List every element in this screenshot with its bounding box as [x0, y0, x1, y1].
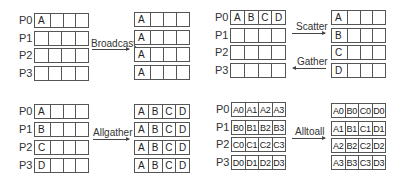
buffer-cell: [76, 67, 89, 80]
buffer-cell: [51, 14, 64, 27]
scatter-after-buffer-p2: C: [331, 45, 386, 60]
scatter-after-buffer-p0: A: [331, 10, 386, 25]
buffer-cell: [245, 29, 259, 42]
buffer-cell: C3: [359, 156, 373, 169]
gather-label: Gather: [297, 56, 328, 68]
buffer-cell: D3: [273, 156, 286, 169]
buffer-cell: [51, 141, 64, 154]
buffer-cell: [76, 105, 88, 118]
broadcast-before-buffer-p2: [34, 48, 89, 63]
buffer-cell: [64, 159, 77, 172]
buffer-cell: [361, 29, 374, 42]
arrow-right-icon: [292, 33, 325, 34]
broadcast-before-buffer-p0: A: [34, 13, 89, 28]
buffer-cell: B: [149, 105, 163, 118]
buffer-cell: A0: [332, 104, 346, 117]
buffer-cell: B1: [346, 122, 360, 135]
process-label-p3: P3: [19, 158, 32, 172]
arrow-right-icon: [92, 49, 129, 50]
process-label-p0: P0: [19, 13, 32, 27]
buffer-cell: D: [35, 159, 51, 172]
process-label-p1: P1: [215, 28, 228, 42]
buffer-cell: [373, 64, 385, 77]
buffer-cell: [272, 29, 285, 42]
alltoall-label: Alltoall: [295, 126, 324, 138]
buffer-cell: D1: [373, 122, 386, 135]
arrow-left-icon: [293, 68, 326, 69]
broadcast-after-buffer-p2: A: [134, 47, 190, 62]
buffer-cell: [177, 13, 189, 26]
buffer-cell: C: [259, 11, 273, 24]
scatter-before-buffer-p3: [230, 63, 286, 78]
scatter-after-buffer-p3: D: [331, 63, 386, 78]
process-label-p3: P3: [215, 63, 228, 77]
buffer-cell: [177, 31, 189, 44]
buffer-cell: D3: [373, 156, 386, 169]
buffer-cell: [76, 14, 88, 27]
buffer-cell: [373, 11, 385, 24]
buffer-cell: [259, 64, 273, 77]
buffer-cell: [62, 32, 76, 45]
process-label-p3: P3: [216, 155, 229, 169]
buffer-cell: [151, 13, 164, 26]
buffer-cell: [64, 141, 77, 154]
buffer-cell: [62, 49, 76, 62]
scatter-before-buffer-p2: [230, 45, 286, 60]
buffer-cell: A: [35, 105, 51, 118]
buffer-cell: D: [176, 159, 189, 172]
buffer-cell: A: [135, 13, 151, 26]
buffer-cell: B: [245, 11, 259, 24]
buffer-cell: [76, 32, 89, 45]
buffer-cell: [231, 29, 245, 42]
buffer-cell: [76, 141, 88, 154]
buffer-cell: [361, 46, 374, 59]
buffer-cell: [348, 64, 361, 77]
buffer-cell: D: [332, 64, 348, 77]
alltoall-after-buffer-p2: A2B2C2D2: [331, 138, 386, 153]
buffer-cell: [49, 49, 63, 62]
buffer-cell: A: [332, 11, 348, 24]
buffer-cell: D2: [373, 139, 386, 152]
allgather-after-buffer-p3: ABCD: [134, 158, 190, 173]
buffer-cell: [151, 48, 164, 61]
buffer-cell: [272, 46, 285, 59]
buffer-cell: [49, 32, 63, 45]
buffer-cell: [64, 105, 77, 118]
buffer-cell: [245, 46, 259, 59]
buffer-cell: [51, 123, 64, 136]
buffer-cell: C: [163, 105, 177, 118]
allgather-before-buffer-p2: C: [34, 140, 89, 155]
buffer-cell: C0: [232, 138, 246, 151]
scatter-after-buffer-p1: B: [331, 28, 386, 43]
buffer-cell: [51, 105, 64, 118]
process-label-p0: P0: [215, 10, 228, 24]
buffer-cell: D1: [246, 156, 260, 169]
buffer-cell: D: [176, 141, 189, 154]
allgather-after-buffer-p2: ABCD: [134, 140, 190, 155]
process-label-p1: P1: [19, 31, 32, 45]
buffer-cell: C0: [359, 104, 373, 117]
buffer-cell: C: [163, 141, 177, 154]
buffer-cell: A: [135, 105, 149, 118]
buffer-cell: A2: [332, 139, 346, 152]
alltoall-after-buffer-p0: A0B0C0D0: [331, 103, 386, 118]
process-label-p2: P2: [216, 137, 229, 151]
buffer-cell: [76, 159, 88, 172]
broadcast-after-buffer-p3: A: [134, 65, 190, 80]
buffer-cell: B0: [232, 121, 246, 134]
buffer-cell: [164, 31, 177, 44]
broadcast-after-buffer-p1: A: [134, 30, 190, 45]
allgather-after-buffer-p0: ABCD: [134, 104, 190, 119]
process-label-p0: P0: [216, 102, 229, 116]
alltoall-before-buffer-p0: A0A1A2A3: [231, 102, 286, 117]
buffer-cell: B3: [346, 156, 360, 169]
buffer-cell: D0: [373, 104, 386, 117]
buffer-cell: A: [135, 31, 151, 44]
buffer-cell: B2: [259, 121, 273, 134]
buffer-cell: A2: [259, 103, 273, 116]
buffer-cell: [62, 67, 76, 80]
buffer-cell: C: [332, 46, 348, 59]
process-label-p2: P2: [215, 45, 228, 59]
buffer-cell: B3: [273, 121, 286, 134]
buffer-cell: C2: [259, 138, 273, 151]
